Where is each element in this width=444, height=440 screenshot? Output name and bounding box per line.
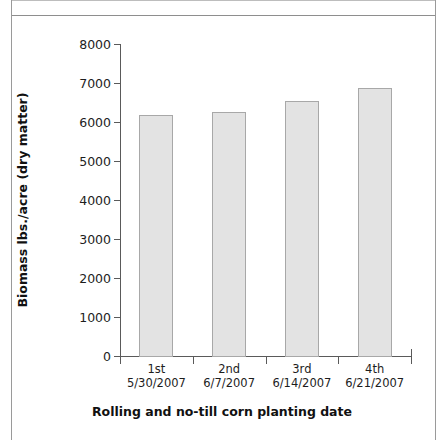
- bar[interactable]: [139, 115, 173, 357]
- x-axis-category-name: 4th: [338, 362, 411, 376]
- y-axis-tick-label: 4000: [79, 193, 111, 208]
- chart-page: Biomass lbs./acre (dry matter) 010002000…: [0, 0, 444, 440]
- x-axis-category-label: 1st5/30/2007: [120, 362, 193, 390]
- y-axis-tick-label: 8000: [79, 37, 111, 52]
- y-axis-tick-mark: [114, 161, 120, 162]
- y-axis-tick-label: 2000: [79, 271, 111, 286]
- page-header-rule: [11, 15, 436, 16]
- y-axis-tick-mark: [114, 44, 120, 45]
- x-axis-category-date: 6/7/2007: [193, 376, 266, 390]
- x-axis-category-date: 6/21/2007: [338, 376, 411, 390]
- y-axis-tick-label: 5000: [79, 154, 111, 169]
- y-axis-tick-label: 3000: [79, 232, 111, 247]
- x-axis-category-name: 3rd: [266, 362, 339, 376]
- page-frame-top-border: [11, 0, 436, 1]
- y-axis-tick-mark: [114, 278, 120, 279]
- y-axis-tick-mark: [114, 200, 120, 201]
- x-axis-label: Rolling and no-till corn planting date: [0, 404, 444, 419]
- x-axis-category-label: 3rd6/14/2007: [266, 362, 339, 390]
- bar[interactable]: [358, 88, 392, 357]
- y-axis-tick-label: 6000: [79, 115, 111, 130]
- y-axis-label: Biomass lbs./acre (dry matter): [15, 92, 30, 307]
- x-axis-category-label: 2nd6/7/2007: [193, 362, 266, 390]
- x-axis-category-label: 4th6/21/2007: [338, 362, 411, 390]
- x-axis-category-name: 2nd: [193, 362, 266, 376]
- page-frame-right-border: [435, 0, 436, 440]
- y-axis-tick-mark: [114, 317, 120, 318]
- x-axis-category-date: 5/30/2007: [120, 376, 193, 390]
- x-axis-tick-mark: [411, 356, 412, 364]
- y-axis-tick-label: 0: [103, 349, 111, 364]
- plot-area: 010002000300040005000600070008000: [120, 44, 411, 356]
- bar[interactable]: [212, 112, 246, 357]
- y-axis-tick-label: 1000: [79, 310, 111, 325]
- page-frame-left-border: [11, 0, 12, 440]
- x-axis-category-date: 6/14/2007: [266, 376, 339, 390]
- y-axis-tick-mark: [114, 122, 120, 123]
- bar[interactable]: [285, 101, 319, 357]
- x-axis-category-name: 1st: [120, 362, 193, 376]
- y-axis-tick-mark: [114, 83, 120, 84]
- y-axis-tick-mark: [114, 239, 120, 240]
- y-axis-tick-label: 7000: [79, 76, 111, 91]
